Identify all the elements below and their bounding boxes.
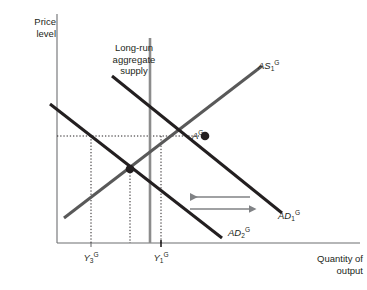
as1-curve [64,66,262,218]
as1-label-sub: 1 [271,65,275,72]
ad2-label-sub: 2 [241,232,245,239]
ad2-label-sup: G [245,226,250,233]
as1-label-base: AS [258,60,271,71]
ad2-curve [50,104,222,238]
lras-annotation-line2: aggregate [113,54,156,65]
y3-label-sub: 3 [90,257,94,264]
ad1-curve [112,76,282,213]
x-axis-label-line2: output [337,265,363,276]
lras-annotation: Long-run aggregate supply [95,42,173,77]
as1-curve-label: AS1G [258,57,280,75]
xtick-label-y3: Y3G [78,249,104,267]
xtick-label-y1: Y1G [148,249,174,267]
equilibrium-point-label: AG [192,127,203,142]
y-axis-label: Price level [4,16,56,39]
ad1-label-sup: G [295,209,300,216]
y1-label-sup: G [163,251,168,258]
lras-annotation-line3: supply [120,65,147,76]
figure-canvas: Price level Quantity of output Long-run … [0,0,367,290]
intersection-point-2 [126,165,135,174]
ad1-label-sub: 1 [291,215,295,222]
ad2-curve-label: AD2G [228,224,250,242]
y3-label-sup: G [93,251,98,258]
point-a-sup: G [198,129,203,136]
x-axis-label: Quantity of output [287,253,363,276]
x-axis-label-line1: Quantity of [317,253,363,264]
ad2-label-base: AD [228,227,241,238]
y-axis-label-line2: level [36,28,56,39]
ad1-label-base: AD [278,210,291,221]
y1-label-sub: 1 [160,257,164,264]
diagram-svg [0,0,367,290]
lras-annotation-line1: Long-run [115,42,153,53]
ad1-curve-label: AD1G [278,207,300,225]
y-axis-label-line1: Price [34,16,56,27]
as1-label-sup: G [274,59,279,66]
